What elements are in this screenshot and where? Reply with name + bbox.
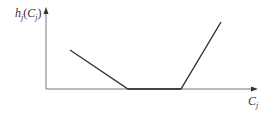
y-axis-label: hj(Cj) — [15, 6, 41, 22]
function-curve — [70, 22, 221, 89]
y-axis-arrow-icon — [44, 7, 49, 14]
x-axis-arrow-icon — [251, 87, 258, 92]
function-diagram: hj(Cj) Cj — [0, 0, 271, 117]
x-axis-label: Cj — [248, 94, 259, 110]
